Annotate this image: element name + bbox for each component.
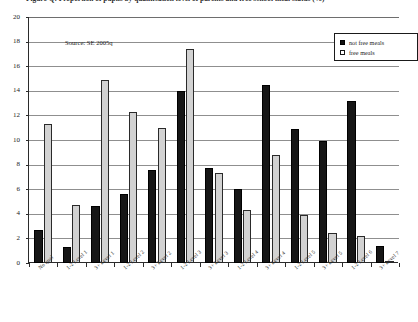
bar-group	[114, 17, 142, 263]
bar-group	[143, 17, 171, 263]
bar-group	[171, 17, 199, 263]
bar-group	[57, 17, 85, 263]
y-axis-tick-label: 6	[0, 186, 20, 193]
bar	[205, 168, 213, 263]
bar	[44, 124, 52, 263]
legend-item-not-free-meals: not free meals	[340, 37, 413, 47]
y-axis-tick-label: 14	[0, 87, 20, 94]
bar-group	[285, 17, 313, 263]
legend-label: not free meals	[349, 39, 384, 46]
bar	[272, 155, 280, 263]
bar	[291, 129, 299, 263]
legend-label: free meals	[349, 49, 375, 56]
legend-item-free-meals: free meals	[340, 47, 413, 57]
bar	[186, 49, 194, 263]
bar-group	[200, 17, 228, 263]
y-axis-tick-label: 16	[0, 63, 20, 70]
y-axis-tick-label: 4	[0, 210, 20, 217]
y-axis-tick-label: 18	[0, 38, 20, 45]
chart-title: Figure Q: Proportion of pupils by qualif…	[26, 0, 398, 4]
plot-area: 02468101214161820 Source: SE 2005q not f…	[28, 17, 398, 263]
hollow-square-icon	[340, 50, 345, 55]
chart-legend: not free meals free meals	[334, 33, 418, 61]
bar	[262, 85, 270, 263]
bar	[234, 189, 242, 263]
y-axis-tick-label: 10	[0, 137, 20, 144]
source-note: Source: SE 2005q	[65, 38, 113, 47]
y-axis-tick-label: 20	[0, 14, 20, 21]
bar	[91, 206, 99, 263]
bar-group	[257, 17, 285, 263]
bar	[120, 194, 128, 263]
bar-group	[228, 17, 256, 263]
bar	[347, 101, 355, 263]
bar-group	[86, 17, 114, 263]
bar	[34, 230, 42, 263]
y-axis-tick-label: 2	[0, 235, 20, 242]
bar-group	[29, 17, 57, 263]
y-axis-tick-label: 12	[0, 112, 20, 119]
filled-square-icon	[340, 40, 345, 45]
bar	[177, 91, 185, 263]
bar	[215, 173, 223, 263]
bar	[129, 112, 137, 263]
x-axis-labels: No qual1-2 Level 13+ Level 11-2 Level 23…	[28, 266, 402, 322]
y-axis-tick-label: 8	[0, 161, 20, 168]
bar	[101, 80, 109, 263]
bar	[319, 141, 327, 263]
y-axis-tick-label: 0	[0, 260, 20, 267]
bar	[158, 128, 166, 263]
bar	[148, 170, 156, 263]
